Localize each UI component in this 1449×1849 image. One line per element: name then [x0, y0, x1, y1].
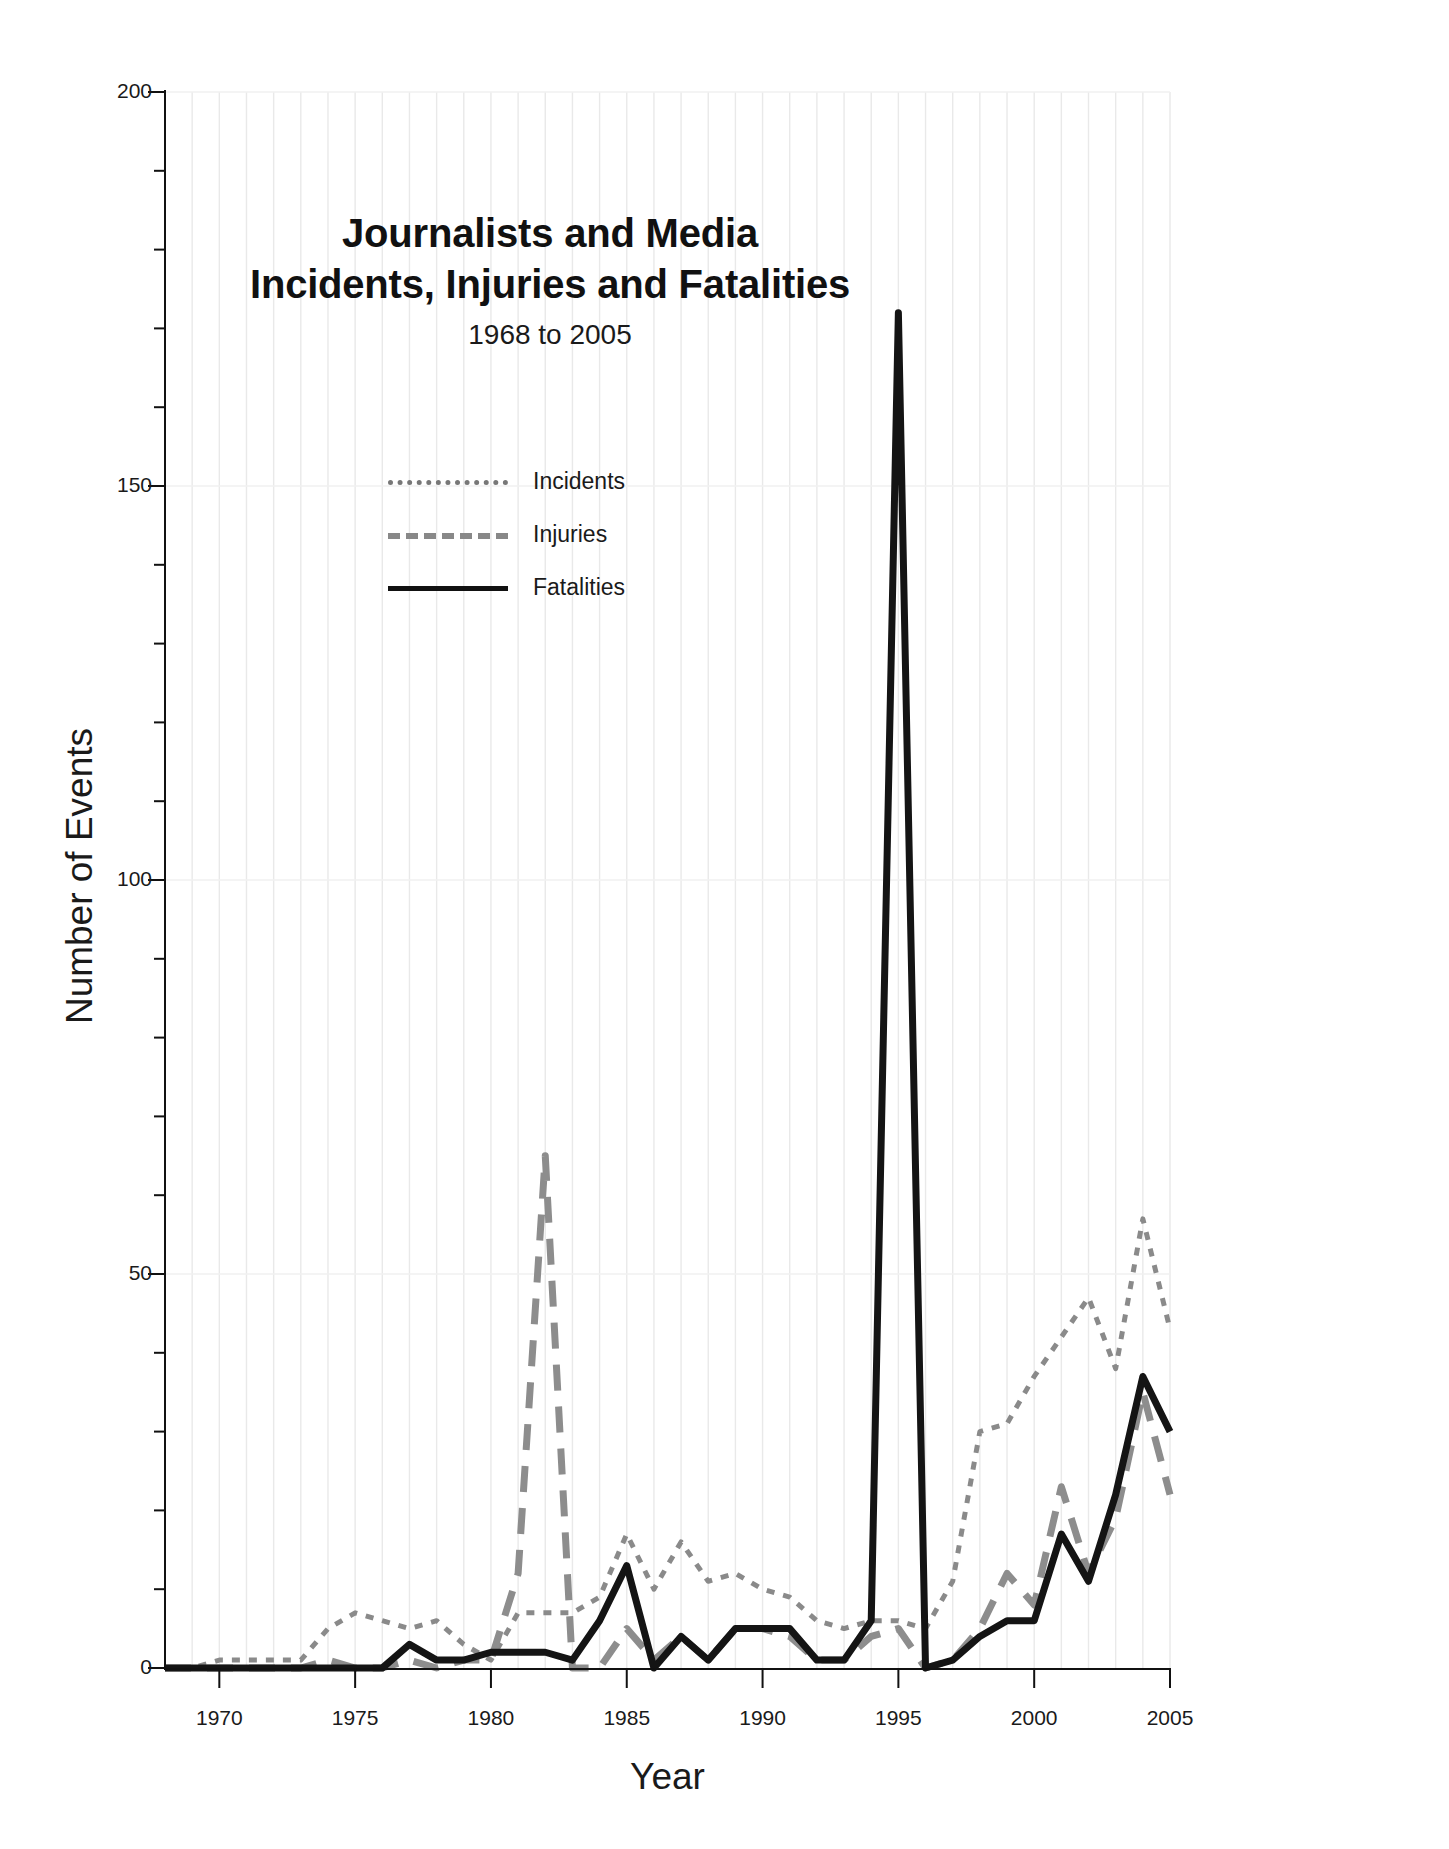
- title-block: Journalists and Media Incidents, Injurie…: [230, 208, 870, 356]
- x-axis-title: Year: [165, 1756, 1170, 1798]
- x-tick-labels: 19701975198019851990199520002005: [0, 1706, 1449, 1746]
- y-tick-label: 0: [140, 1655, 152, 1679]
- chart-title-line-2: Incidents, Injuries and Fatalities: [230, 259, 870, 310]
- legend-label-fatalities: Fatalities: [533, 574, 625, 601]
- y-tick-label: 50: [129, 1261, 152, 1285]
- legend-item-incidents[interactable]: Incidents: [388, 460, 718, 513]
- x-tick-label: 2005: [1147, 1706, 1194, 1730]
- y-tick-label: 200: [117, 79, 152, 103]
- chart-canvas: 050100150200 197019751980198519901995200…: [0, 0, 1449, 1849]
- chart-legend: Incidents Injuries Fatalities: [388, 460, 718, 619]
- x-tick-label: 1990: [739, 1706, 786, 1730]
- x-tick-label: 1970: [196, 1706, 243, 1730]
- x-tick-label: 1985: [603, 1706, 650, 1730]
- x-tick-label: 1995: [875, 1706, 922, 1730]
- legend-item-injuries[interactable]: Injuries: [388, 513, 718, 566]
- x-tick-label: 1975: [332, 1706, 379, 1730]
- y-axis-title: Number of Events: [59, 496, 101, 1256]
- chart-title-line-1: Journalists and Media: [230, 208, 870, 259]
- x-tick-label: 2000: [1011, 1706, 1058, 1730]
- legend-swatch-incidents-icon: [388, 480, 508, 485]
- legend-swatch-injuries-icon: [388, 533, 508, 539]
- y-tick-label: 100: [117, 867, 152, 891]
- y-tick-label: 150: [117, 473, 152, 497]
- x-tick-label: 1980: [468, 1706, 515, 1730]
- legend-item-fatalities[interactable]: Fatalities: [388, 566, 718, 619]
- legend-label-incidents: Incidents: [533, 468, 625, 495]
- legend-swatch-fatalities-icon: [388, 586, 508, 591]
- chart-subtitle: 1968 to 2005: [230, 314, 870, 356]
- legend-label-injuries: Injuries: [533, 521, 607, 548]
